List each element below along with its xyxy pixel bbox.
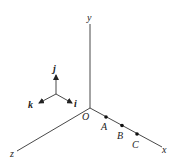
point-a-label: A <box>100 121 108 132</box>
point-b <box>120 124 124 128</box>
x-axis-label: x <box>161 144 167 155</box>
z-axis <box>17 108 90 151</box>
point-b-label: B <box>117 130 123 141</box>
k-vector-label: k <box>28 99 33 110</box>
coordinate-diagram: y x z O A B C j k i <box>0 0 176 162</box>
origin-label: O <box>82 111 89 122</box>
point-a <box>104 115 108 119</box>
i-vector-arrow <box>56 94 72 103</box>
k-vector-arrow <box>39 94 56 103</box>
point-c-label: C <box>132 139 139 150</box>
point-c <box>135 132 139 136</box>
z-axis-label: z <box>9 148 14 159</box>
i-vector-label: i <box>74 98 77 109</box>
y-axis-label: y <box>86 12 92 23</box>
j-vector-label: j <box>51 63 56 74</box>
